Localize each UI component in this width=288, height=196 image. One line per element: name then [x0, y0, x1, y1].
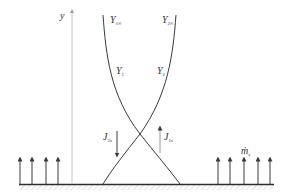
surface-flux-arrows-right	[218, 159, 270, 184]
label-j1s: J1s	[164, 131, 173, 143]
curve-y2	[103, 15, 176, 184]
curve-y1	[103, 15, 180, 184]
label-y2-inf: Y2∞	[162, 14, 174, 26]
label-mdot-s: ṁs	[241, 145, 250, 157]
label-j2s: J2s	[103, 131, 112, 143]
label-y1: Y1	[116, 65, 125, 77]
label-y2: Y2	[157, 65, 166, 77]
diagram-canvas: y Y1∞ Y2∞ Y1 Y2 J2s J1s ṁs	[0, 0, 288, 196]
y-axis-label: y	[59, 10, 65, 21]
label-y1-inf: Y1∞	[110, 14, 122, 26]
surface-flux-arrows-left	[20, 159, 58, 184]
wall-hatch	[19, 185, 274, 190]
